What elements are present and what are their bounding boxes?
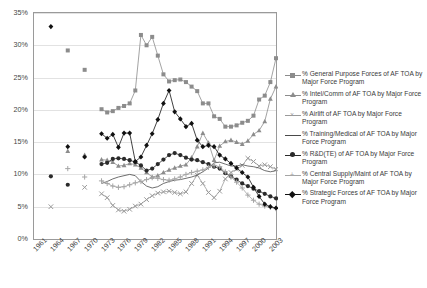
data-point-square [263, 94, 267, 98]
data-point-x [229, 170, 234, 175]
data-point-diamond [82, 154, 87, 159]
data-point-filled-circle [167, 153, 171, 157]
data-point-square [218, 117, 222, 121]
data-point-x [105, 195, 110, 200]
legend-item-intel_comm[interactable]: % Intel/Comm of AF TOA by Major Force Pr… [285, 90, 427, 106]
legend-label: % Strategic Forces of AF TOA by Major Fo… [301, 189, 427, 205]
chart-screenshot: 0%5%10%15%20%25%30%35% 19611964196719701… [0, 0, 427, 288]
data-point-plus [257, 202, 262, 207]
plot-area [33, 12, 277, 240]
data-point-filled-circle [99, 162, 103, 166]
data-point-square [100, 107, 104, 111]
series-line [102, 35, 277, 127]
data-point-plus [183, 172, 188, 177]
data-point-x [268, 164, 273, 169]
data-point-square [161, 72, 165, 76]
x-axis: 1961196419671970197319761979198219851988… [33, 241, 277, 287]
data-point-diamond [150, 131, 155, 136]
data-point-plus [189, 170, 194, 175]
y-axis-tick-label: 15% [0, 137, 28, 146]
data-point-filled-circle [144, 168, 148, 172]
legend-label: % R&D(TE) of AF TOA by Major Force Progr… [301, 150, 427, 166]
data-point-filled-circle [139, 163, 143, 167]
data-point-x [49, 204, 54, 209]
data-point-plus [133, 180, 138, 185]
legend-item-airlift[interactable]: ×% Airlift of AF TOA by Major Force Prog… [285, 110, 427, 126]
data-point-filled-circle [105, 161, 109, 165]
data-point-x [251, 159, 256, 164]
data-point-triangle [195, 144, 200, 148]
data-point-triangle [274, 84, 278, 88]
data-point-x [217, 189, 222, 194]
data-point-filled-circle [128, 158, 132, 162]
data-point-square [111, 109, 115, 113]
data-point-square [66, 48, 70, 52]
data-point-square [156, 54, 160, 58]
legend-item-training_medical[interactable]: % Training/Medical of AF TOA by Major Fo… [285, 130, 427, 146]
legend-item-strategic[interactable]: % Strategic Forces of AF TOA by Major Fo… [285, 189, 427, 205]
legend-item-rdte[interactable]: % R&D(TE) of AF TOA by Major Force Progr… [285, 150, 427, 166]
data-point-plus [116, 185, 121, 190]
legend-label: % General Purpose Forces of AF TOA by Ma… [301, 70, 427, 86]
data-point-x [144, 197, 149, 202]
data-point-square [190, 85, 194, 89]
data-point-square [240, 121, 244, 125]
data-point-triangle [217, 143, 222, 147]
data-point-triangle [257, 128, 262, 132]
legend-marker-none-icon [285, 131, 301, 140]
legend-label: % Training/Medical of AF TOA by Major Fo… [301, 130, 427, 146]
data-point-x [223, 177, 228, 182]
data-point-filled-circle [156, 162, 160, 166]
data-point-filled-circle [240, 181, 244, 185]
series-line [102, 162, 277, 188]
data-point-square [257, 98, 261, 102]
legend-item-central_supply[interactable]: +% Central Supply/Maint of AF TOA by Maj… [285, 170, 427, 186]
data-point-filled-circle [49, 174, 53, 178]
legend-label: % Intel/Comm of AF TOA by Major Force Pr… [301, 90, 427, 106]
data-point-triangle [200, 131, 205, 135]
data-point-plus [82, 174, 87, 179]
data-point-square [268, 80, 272, 84]
data-point-plus [65, 166, 70, 171]
data-point-diamond [110, 132, 115, 137]
legend-marker-plus-icon: + [285, 171, 301, 180]
data-point-filled-circle [178, 153, 182, 157]
data-point-diamond [144, 143, 149, 148]
data-point-square [206, 101, 210, 105]
data-point-filled-circle [268, 194, 272, 198]
chart-legend: % General Purpose Forces of AF TOA by Ma… [285, 70, 427, 209]
y-axis-tick-label: 10% [0, 169, 28, 178]
data-point-triangle [229, 138, 234, 142]
series-intel_comm [65, 84, 278, 179]
data-point-square [229, 125, 233, 129]
data-point-square [251, 114, 255, 118]
data-point-x [139, 202, 144, 207]
data-point-square [195, 89, 199, 93]
data-point-diamond [274, 205, 278, 210]
data-point-triangle [262, 119, 267, 123]
data-point-square [150, 35, 154, 39]
y-axis-tick-label: 5% [0, 202, 28, 211]
data-point-square [122, 104, 126, 108]
data-point-square [184, 80, 188, 84]
data-point-diamond [161, 101, 166, 106]
y-axis-tick-label: 30% [0, 40, 28, 49]
data-point-x [82, 185, 87, 190]
data-point-x [150, 193, 155, 198]
legend-marker-x-icon: × [285, 111, 301, 120]
data-point-plus [121, 184, 126, 189]
data-point-square [212, 114, 216, 118]
data-point-square [167, 79, 171, 83]
data-point-square [274, 56, 278, 60]
data-point-diamond [48, 24, 53, 29]
data-point-x [212, 195, 217, 200]
data-point-filled-circle [257, 189, 261, 193]
data-point-square [133, 88, 137, 92]
data-point-x [189, 181, 194, 186]
data-point-plus [105, 181, 110, 186]
data-point-x [201, 181, 206, 186]
data-point-x [133, 204, 138, 209]
data-point-diamond [116, 145, 121, 150]
legend-item-general_purpose[interactable]: % General Purpose Forces of AF TOA by Ma… [285, 70, 427, 86]
series-line [102, 87, 277, 177]
